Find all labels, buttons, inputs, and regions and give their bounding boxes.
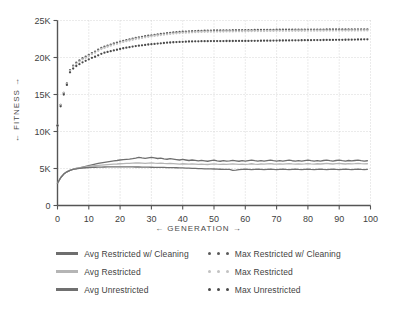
chart-legend: Avg Restricted w/ CleaningMax Restricted… xyxy=(0,246,397,297)
legend-entry[interactable]: Max Restricted w/ Cleaning xyxy=(207,246,341,261)
axis-tick-labels: 010203040506070809010005K10K15K20K25K xyxy=(34,16,378,224)
series-max-restricted xyxy=(56,29,368,126)
legend-line-swatch-icon xyxy=(56,248,78,259)
legend-label: Max Restricted xyxy=(235,267,293,277)
legend-label: Max Unrestricted xyxy=(235,285,301,295)
legend-entry[interactable]: Max Restricted xyxy=(207,264,341,279)
svg-text:30: 30 xyxy=(146,214,156,224)
series-avg-restricted xyxy=(58,163,368,183)
x-axis-title: ← GENERATION → xyxy=(0,224,397,233)
legend-entry[interactable]: Avg Unrestricted xyxy=(56,282,189,297)
legend-line-swatch-icon xyxy=(56,284,78,295)
svg-text:70: 70 xyxy=(272,214,282,224)
legend-label: Avg Restricted xyxy=(84,267,141,277)
svg-text:90: 90 xyxy=(334,214,344,224)
series-avg-restricted-w-cleaning xyxy=(58,157,368,183)
svg-text:20K: 20K xyxy=(34,53,50,63)
svg-text:0: 0 xyxy=(55,214,60,224)
legend-label: Max Restricted w/ Cleaning xyxy=(235,249,341,259)
svg-text:0: 0 xyxy=(45,201,50,211)
data-series-layer xyxy=(56,28,368,183)
svg-text:15K: 15K xyxy=(34,90,50,100)
series-max-restricted-w-cleaning xyxy=(56,28,368,127)
legend-dotted-swatch-icon xyxy=(207,248,229,259)
svg-text:5K: 5K xyxy=(39,164,50,174)
legend-line-swatch-icon xyxy=(56,266,78,277)
svg-text:100: 100 xyxy=(363,214,378,224)
legend-dotted-swatch-icon xyxy=(207,284,229,295)
series-max-unrestricted xyxy=(56,38,368,127)
svg-text:60: 60 xyxy=(240,214,250,224)
svg-text:20: 20 xyxy=(115,214,125,224)
svg-text:50: 50 xyxy=(209,214,219,224)
svg-text:40: 40 xyxy=(178,214,188,224)
legend-label: Avg Unrestricted xyxy=(84,285,148,295)
legend-entry[interactable]: Avg Restricted xyxy=(56,264,189,279)
y-axis-title: ← FITNESS → xyxy=(12,30,21,190)
svg-text:10: 10 xyxy=(84,214,94,224)
legend-dotted-swatch-icon xyxy=(207,266,229,277)
legend-entry[interactable]: Max Unrestricted xyxy=(207,282,341,297)
legend-label: Avg Restricted w/ Cleaning xyxy=(84,249,189,259)
fitness-vs-generation-chart: 010203040506070809010005K10K15K20K25K ← … xyxy=(0,0,397,314)
series-avg-unrestricted xyxy=(58,167,368,184)
legend-entry[interactable]: Avg Restricted w/ Cleaning xyxy=(56,246,189,261)
svg-text:25K: 25K xyxy=(34,16,50,26)
svg-text:10K: 10K xyxy=(34,127,50,137)
svg-text:80: 80 xyxy=(303,214,313,224)
